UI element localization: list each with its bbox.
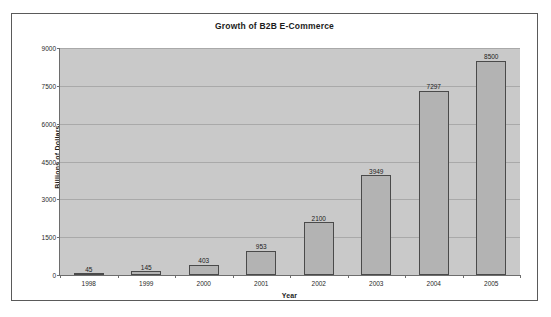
y-axis-tick-label: 4500 xyxy=(42,158,56,165)
y-axis-tick-label: 0 xyxy=(52,272,56,279)
bar-group: 2100 xyxy=(290,48,348,275)
bar-value-label: 7297 xyxy=(427,83,441,90)
y-axis-tick-label: 1500 xyxy=(42,234,56,241)
bar-value-label: 45 xyxy=(85,266,92,273)
x-axis-tick-mark xyxy=(405,275,406,278)
x-axis-tick-mark xyxy=(463,275,464,278)
bar-group: 45 xyxy=(60,48,118,275)
x-axis-tick-label: 1999 xyxy=(139,280,153,287)
bar-1999[interactable]: 145 xyxy=(131,271,161,275)
bar-value-label: 3949 xyxy=(369,168,383,175)
chart-frame: Growth of B2B E-Commerce Billions of Dol… xyxy=(11,13,538,301)
bar-2000[interactable]: 403 xyxy=(189,265,219,275)
x-axis-tick-mark xyxy=(175,275,176,278)
x-axis-tick-mark xyxy=(520,275,521,278)
x-axis-tick-mark xyxy=(60,275,61,278)
bar-group: 145 xyxy=(118,48,176,275)
x-axis-tick-mark xyxy=(233,275,234,278)
x-axis-tick-mark xyxy=(348,275,349,278)
bar-group: 8500 xyxy=(463,48,521,275)
x-axis-title: Year xyxy=(59,292,520,299)
x-axis-tick-label: 2000 xyxy=(197,280,211,287)
bar-2003[interactable]: 3949 xyxy=(361,175,391,275)
x-axis-tick-label: 2005 xyxy=(484,280,498,287)
bar-2005[interactable]: 8500 xyxy=(476,61,506,275)
y-axis-tick-label: 9000 xyxy=(42,45,56,52)
y-axis-tick-label: 6000 xyxy=(42,120,56,127)
x-axis-tick-label: 1998 xyxy=(82,280,96,287)
x-axis-tick-label: 2001 xyxy=(254,280,268,287)
bar-group: 953 xyxy=(233,48,291,275)
x-axis-tick-label: 2002 xyxy=(312,280,326,287)
bar-value-label: 145 xyxy=(141,264,152,271)
bar-group: 403 xyxy=(175,48,233,275)
bar-2001[interactable]: 953 xyxy=(246,251,276,275)
y-axis-tick-label: 7500 xyxy=(42,82,56,89)
x-axis-tick-mark xyxy=(290,275,291,278)
x-axis-tick-label: 2004 xyxy=(427,280,441,287)
bar-value-label: 2100 xyxy=(312,215,326,222)
chart-title: Growth of B2B E-Commerce xyxy=(12,21,537,31)
bar-2002[interactable]: 2100 xyxy=(304,222,334,275)
bar-group: 3949 xyxy=(348,48,406,275)
bar-1998[interactable]: 45 xyxy=(74,273,104,275)
chart-page: Growth of B2B E-Commerce Billions of Dol… xyxy=(0,0,551,317)
bar-value-label: 403 xyxy=(198,257,209,264)
x-axis-tick-mark xyxy=(118,275,119,278)
x-axis-tick-label: 2003 xyxy=(369,280,383,287)
y-axis-tick-label: 3000 xyxy=(42,196,56,203)
plot-area: 0150030004500600075009000451998145199940… xyxy=(59,48,520,276)
bar-value-label: 8500 xyxy=(484,53,498,60)
bar-group: 7297 xyxy=(405,48,463,275)
bar-2004[interactable]: 7297 xyxy=(419,91,449,275)
bar-value-label: 953 xyxy=(256,243,267,250)
